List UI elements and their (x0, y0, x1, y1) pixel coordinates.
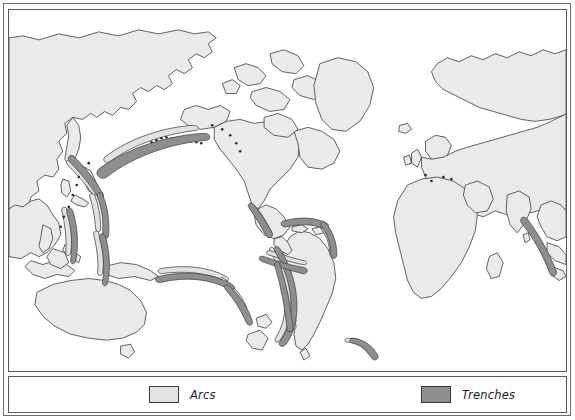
world-map-svg: .land{fill:#eaeaea;stroke:#3a3a3a;stroke… (9, 10, 566, 371)
trench-swatch (421, 386, 451, 403)
legend-item-arcs: Arcs (149, 386, 216, 403)
map-legend: Arcs Trenches (8, 376, 567, 413)
legend-label-arcs: Arcs (190, 388, 216, 402)
legend-label-trenches: Trenches (462, 388, 516, 402)
arc-swatch (149, 386, 179, 403)
map-panel: .land{fill:#eaeaea;stroke:#3a3a3a;stroke… (8, 9, 567, 372)
figure-page: .land{fill:#eaeaea;stroke:#3a3a3a;stroke… (0, 0, 575, 420)
legend-item-trenches: Trenches (421, 386, 516, 403)
